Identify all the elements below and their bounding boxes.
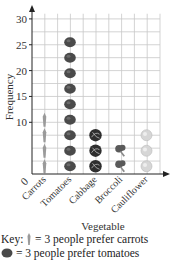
tomato-icon [64, 53, 76, 63]
y-axis-ticks: 1015202530 [16, 13, 32, 128]
tomato-icon [64, 37, 76, 47]
cauliflower-icon [141, 130, 152, 141]
key-line-tomatoes: = 3 people prefer tomatoes [1, 247, 139, 260]
broccoli-icon [115, 145, 125, 157]
key-text-carrots: = 3 people prefer carrots [35, 233, 148, 245]
y-tick-label: 20 [16, 65, 28, 77]
broccoli-icon [115, 160, 125, 172]
tomato-icon [64, 130, 76, 140]
tomato-icon [64, 115, 76, 125]
tomato-icon [1, 248, 13, 260]
carrot-icon [43, 144, 47, 158]
y-tick-label: 25 [16, 39, 28, 51]
x-axis-title: Vegetable [81, 220, 124, 232]
x-axis-category-labels: CarrotsTomatoesCabbageBroccoliCauliflowe… [19, 173, 150, 215]
tomato-icon [64, 99, 76, 109]
carrot-icon [43, 128, 47, 142]
y-axis-title: Frequency [3, 73, 15, 120]
tomato-icon [64, 161, 76, 171]
tomato-icon [64, 84, 76, 94]
key-text-tomatoes: = 3 people prefer tomatoes [16, 247, 139, 259]
y-tick-label: 10 [16, 116, 28, 128]
cabbage-icon [89, 145, 101, 157]
y-tick-label: 15 [16, 90, 28, 102]
y-tick-label: 30 [16, 13, 28, 25]
cauliflower-icon [141, 145, 152, 156]
carrot-icon [26, 233, 32, 248]
cauliflower-icon [141, 161, 152, 172]
carrot-icon [43, 113, 47, 127]
cabbage-icon [89, 160, 101, 172]
key-line-carrots: Key: = 3 people prefer carrots [1, 233, 148, 248]
key-prefix: Key: [1, 233, 23, 245]
tomato-icon [64, 146, 76, 156]
cabbage-icon [89, 129, 101, 141]
pictograph-chart: 1015202530 CarrotsTomatoesCabbageBroccol… [0, 0, 175, 235]
tomato-icon [64, 68, 76, 78]
